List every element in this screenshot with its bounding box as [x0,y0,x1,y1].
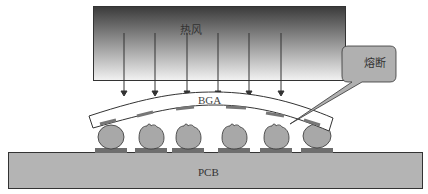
bga-label: BGA [198,94,221,106]
solder-ball-intact [98,125,124,149]
solder-ball-melted [264,124,289,149]
solder-ball-melted [176,124,201,149]
callout-label-fuse: 熔断 [364,54,386,70]
pcb-label: PCB [198,166,219,178]
solder-ball-melted [139,124,164,149]
hot-air-heater [94,7,346,81]
hot-air-label: 热风 [180,21,202,37]
solder-balls [98,124,331,149]
solder-ball-melted [222,124,247,149]
